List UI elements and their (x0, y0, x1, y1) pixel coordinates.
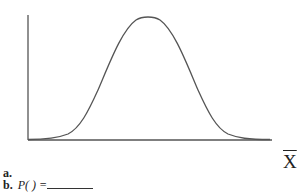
bell-curve (28, 17, 270, 140)
question-b-marker: b. (3, 178, 13, 192)
probability-expression: P( ) = (18, 178, 47, 192)
normal-curve-diagram (0, 0, 306, 193)
question-b: b.P( ) = (3, 178, 93, 193)
answer-blank[interactable] (47, 178, 93, 189)
x-bar-axis-label: X (283, 151, 297, 173)
